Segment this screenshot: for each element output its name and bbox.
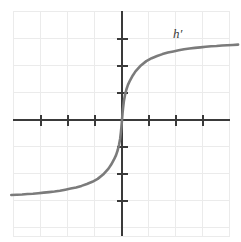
plot-area (0, 0, 241, 242)
curve-label-h-prime: h′ (173, 27, 182, 40)
graph-figure: h′ (0, 0, 241, 242)
